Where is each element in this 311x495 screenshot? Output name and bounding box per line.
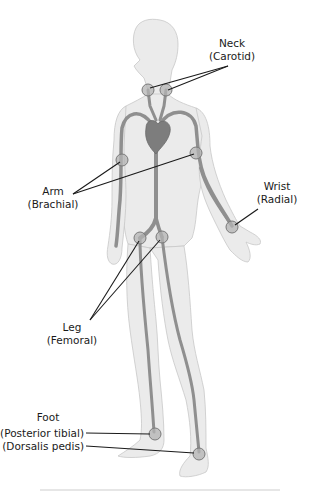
pulse-point-brachial-left (116, 154, 128, 166)
leader-wrist (235, 209, 258, 225)
pulse-point-dorsalis-pedis (193, 448, 205, 460)
cut-off-caption (40, 488, 280, 492)
pulse-point-carotid-left (142, 84, 154, 96)
pulse-point-brachial-right (190, 147, 202, 159)
label-arm-title: Arm (42, 185, 64, 197)
pulse-point-femoral-left (134, 232, 146, 244)
pulse-point-radial (226, 221, 238, 233)
label-wrist-title: Wrist (264, 180, 291, 192)
label-leg-title: Leg (63, 321, 82, 333)
label-arm-artery: (Brachial) (28, 198, 79, 210)
body-silhouette (107, 19, 260, 477)
head (133, 19, 178, 96)
label-foot-dorsalis-pedis: (Dorsalis pedis) (2, 440, 84, 452)
label-leg-artery: (Femoral) (47, 334, 97, 346)
label-wrist-artery: (Radial) (257, 193, 298, 205)
leader-posterior-tibial (86, 433, 150, 434)
pulse-points-diagram: Neck (Carotid) Arm (Brachial) Wrist (Rad… (0, 0, 311, 495)
pulse-point-carotid-right (160, 84, 172, 96)
label-neck-title: Neck (219, 37, 246, 49)
pulse-point-femoral-right (156, 231, 168, 243)
label-foot-posterior-tibial: (Posterior tibial) (0, 427, 84, 439)
pulse-point-posterior-tibial (149, 428, 161, 440)
label-neck-artery: (Carotid) (209, 50, 255, 62)
leader-neck-right (168, 66, 228, 90)
label-foot-title: Foot (37, 411, 60, 423)
